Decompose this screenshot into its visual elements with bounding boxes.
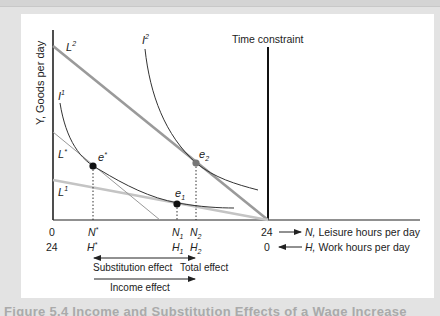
indifference-curve-I2 xyxy=(145,49,258,190)
label-estar: e* xyxy=(98,151,107,163)
x-tick-N2: N2 xyxy=(190,226,202,240)
income-effect-label: Income effect xyxy=(110,282,170,293)
x-tick-Nstar: N* xyxy=(88,226,99,238)
h-tick-H2: H2 xyxy=(190,241,202,255)
x-tick-N1: N1 xyxy=(172,226,184,240)
point-estar xyxy=(89,162,96,169)
compensated-line-Lstar xyxy=(53,132,160,220)
point-e2 xyxy=(192,159,199,166)
x-axis-label: N, Leisure hours per day xyxy=(305,226,421,238)
label-Lstar: L* xyxy=(58,148,67,160)
label-I1: I1 xyxy=(58,89,65,102)
h-tick-24: 24 xyxy=(46,241,58,253)
label-L2: L2 xyxy=(66,40,76,53)
h-tick-0: 0 xyxy=(264,241,270,253)
y-axis-label: Y, Goods per day xyxy=(34,40,46,125)
x-tick-0: 0 xyxy=(49,226,55,238)
figure-caption: Figure 5.4 Income and Substitution Effec… xyxy=(4,304,436,316)
budget-line-L2 xyxy=(53,46,268,220)
h-axis-label: H, Work hours per day xyxy=(305,241,411,253)
substitution-effect-label: Substitution effect xyxy=(93,262,173,273)
x-tick-24: 24 xyxy=(261,226,273,238)
total-effect-label: Total effect xyxy=(180,262,228,273)
label-I2: I2 xyxy=(142,33,149,46)
h-tick-H1: H1 xyxy=(172,241,184,255)
label-e1: e1 xyxy=(175,187,185,201)
h-tick-Hstar: H* xyxy=(87,241,98,253)
point-e1 xyxy=(173,200,180,207)
label-e2: e2 xyxy=(199,148,209,162)
label-L1: L1 xyxy=(58,185,68,198)
time-constraint-label: Time constraint xyxy=(232,33,303,45)
budget-line-L1 xyxy=(53,180,268,220)
